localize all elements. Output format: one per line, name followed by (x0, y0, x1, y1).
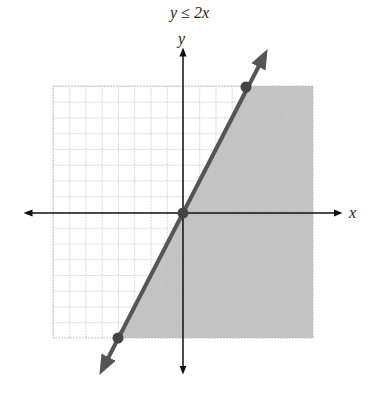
y-axis-label: y (176, 30, 186, 48)
point-origin (178, 208, 189, 219)
point-neg4-neg8 (113, 333, 124, 344)
x-axis-label: x (348, 204, 356, 221)
coordinate-plane: y x (0, 0, 379, 397)
point-4-8 (241, 82, 252, 93)
